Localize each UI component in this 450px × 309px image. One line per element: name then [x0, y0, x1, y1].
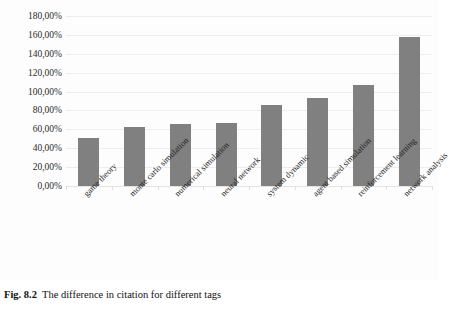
y-axis-tick-label: 180,00% [0, 11, 62, 21]
bar [307, 98, 328, 186]
y-axis-tick-label: 100,00% [0, 87, 62, 97]
x-axis-labels: game theorymonte carlo simulationnumeric… [0, 186, 438, 280]
caption-text: The difference in citation for different… [42, 289, 221, 300]
bar [261, 105, 282, 186]
bar-chart: 0,00%20,00%40,00%60,00%80,00%100,00%120,… [0, 0, 438, 280]
figure-caption: Fig. 8.2The difference in citation for d… [4, 288, 434, 301]
bar [399, 37, 420, 186]
y-axis-tick-label: 20,00% [0, 162, 62, 172]
bar [353, 85, 374, 186]
y-axis-tick-label: 40,00% [0, 143, 62, 153]
y-axis-tick-label: 80,00% [0, 105, 62, 115]
y-axis-tick-label: 160,00% [0, 30, 62, 40]
y-axis-tick-label: 120,00% [0, 68, 62, 78]
y-axis-labels: 0,00%20,00%40,00%60,00%80,00%100,00%120,… [0, 0, 62, 196]
y-axis-tick-label: 140,00% [0, 49, 62, 59]
y-axis-tick-label: 60,00% [0, 124, 62, 134]
figure-number: Fig. 8.2 [4, 289, 37, 300]
